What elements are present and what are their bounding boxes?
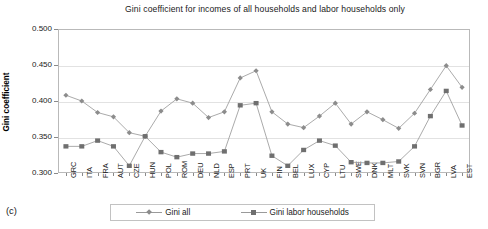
x-tick-label-prt: PRT [243,163,252,178]
x-tick-label-cyp: CYP [322,163,331,178]
x-tick-mark [177,173,178,176]
x-tick-label-cze: CZE [132,163,141,178]
x-tick-mark [304,173,305,176]
x-tick-mark [430,173,431,176]
x-tick-label-est: EST [465,164,474,178]
x-tick-label-aut: AUT [116,163,125,178]
legend-label-gini-all: Gini all [165,208,190,217]
panel-caption: (c) [6,205,17,216]
x-tick-mark [129,173,130,176]
x-tick-mark [193,173,194,176]
figure-panel: Gini coefficient for incomes of all hous… [0,0,488,229]
x-tick-label-lux: LUX [307,164,316,178]
x-tick-label-fra: FRA [101,163,110,178]
x-tick-label-hun: HUN [148,162,157,178]
x-tick-mark [240,173,241,176]
x-tick-label-nld: NLD [212,163,221,178]
x-tick-mark [66,173,67,176]
x-tick-mark [319,173,320,176]
y-gridline [59,66,469,67]
x-tick-label-deu: DEU [196,162,205,178]
x-tick-mark [209,173,210,176]
square-marker-icon [251,210,256,214]
legend-swatch-gini-all [136,212,162,213]
x-tick-mark [367,173,368,176]
y-tick-mark [54,65,58,66]
x-tick-mark [98,173,99,176]
x-tick-label-grc: GRC [69,162,78,178]
x-tick-mark [113,173,114,176]
y-tick-label: 0.400 [0,96,52,105]
x-tick-label-bgr: BGR [433,162,442,178]
x-tick-label-ita: ITA [85,167,94,178]
x-tick-mark [415,173,416,176]
x-tick-mark [145,173,146,176]
legend-entry-gini-labor: Gini labor households [241,208,349,217]
y-tick-mark [54,137,58,138]
y-tick-mark [54,173,58,174]
legend-swatch-gini-labor [241,212,267,213]
y-tick-mark [54,29,58,30]
x-tick-label-svn: SVN [418,163,427,178]
x-tick-label-esp: ESP [227,163,236,178]
x-tick-label-swe: SWE [354,161,363,178]
legend-entry-gini-all: Gini all [136,208,190,217]
y-gridline [59,138,469,139]
x-tick-mark [335,173,336,176]
x-tick-mark [351,173,352,176]
x-tick-mark [161,173,162,176]
x-tick-label-fin: FIN [275,166,284,178]
x-tick-mark [383,173,384,176]
y-tick-label: 0.350 [0,132,52,141]
x-tick-mark [82,173,83,176]
y-gridline [59,102,469,103]
x-tick-mark [272,173,273,176]
x-tick-label-mlt: MLT [386,164,395,178]
x-tick-label-rom: ROM [180,161,189,178]
y-tick-mark [54,101,58,102]
y-tick-label: 0.300 [0,168,52,177]
legend-label-gini-labor: Gini labor households [270,208,349,217]
y-tick-label: 0.450 [0,60,52,69]
diamond-marker-icon [146,210,152,216]
x-tick-mark [256,173,257,176]
x-tick-mark [462,173,463,176]
x-tick-mark [399,173,400,176]
plot-area [58,29,470,173]
y-tick-label: 0.500 [0,24,52,33]
x-tick-label-pol: POL [164,163,173,178]
x-tick-mark [446,173,447,176]
x-tick-label-lva: LVA [449,165,458,178]
x-tick-label-svk: SVK [402,163,411,178]
x-tick-mark [224,173,225,176]
x-tick-label-bel: BEL [291,164,300,178]
x-tick-mark [288,173,289,176]
x-tick-label-ltu: LTU [338,165,347,178]
x-tick-label-dnk: DNK [370,162,379,178]
chart-title: Gini coefficient for incomes of all hous… [60,4,470,14]
chart-legend: Gini all Gini labor households [110,204,375,221]
x-tick-label-uk: UK [259,168,268,178]
